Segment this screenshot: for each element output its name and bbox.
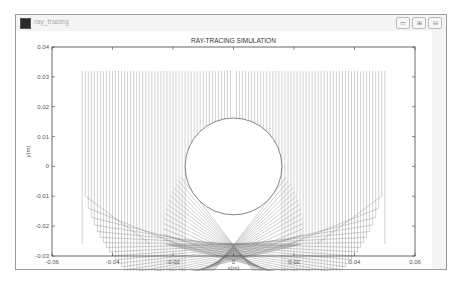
x-tick-label: -0.06 xyxy=(45,259,59,265)
y-tick-label: 0.01 xyxy=(37,134,49,140)
y-tick-label: 0.02 xyxy=(37,104,49,110)
figure-canvas: -0.06-0.04-0.0200.020.040.060.040.030.02… xyxy=(16,31,432,269)
close-button[interactable]: ⊟ xyxy=(428,17,442,29)
x-tick-label: -0.02 xyxy=(166,259,180,265)
y-tick-label: 0.04 xyxy=(37,44,49,50)
y-tick-label: 0.03 xyxy=(37,74,49,80)
y-tick-label: -0.02 xyxy=(35,223,49,229)
plot-title: RAY-TRACING SIMULATION xyxy=(191,37,276,44)
window-controls: ▭ ⊞ ⊟ xyxy=(396,17,442,29)
maximize-button[interactable]: ⊞ xyxy=(412,17,426,29)
ray-line xyxy=(317,71,382,244)
figure-window: ray_tracing ▭ ⊞ ⊟ -0.06-0.04-0.0200.020.… xyxy=(15,14,447,270)
x-tick-label: 0.02 xyxy=(288,259,300,265)
x-tick-label: -0.04 xyxy=(106,259,120,265)
x-tick-label: 0.06 xyxy=(409,259,421,265)
titlebar[interactable]: ray_tracing ▭ ⊞ ⊟ xyxy=(16,15,446,31)
window-title: ray_tracing xyxy=(34,18,69,25)
ray-tracing-plot: -0.06-0.04-0.0200.020.040.060.040.030.02… xyxy=(16,31,434,271)
ray-line xyxy=(88,71,177,244)
ray-line xyxy=(289,71,378,244)
sphere-obstacle xyxy=(185,118,282,215)
y-tick-label: -0.01 xyxy=(35,193,49,199)
ray-line xyxy=(85,71,150,244)
y-tick-label: -0.03 xyxy=(35,253,49,259)
x-tick-label: 0.04 xyxy=(349,259,361,265)
y-tick-label: 0 xyxy=(46,163,50,169)
app-icon xyxy=(20,18,31,29)
minimize-button[interactable]: ▭ xyxy=(396,17,410,29)
x-axis-label: x(m) xyxy=(228,265,240,271)
y-axis-label: y(m) xyxy=(25,146,31,158)
